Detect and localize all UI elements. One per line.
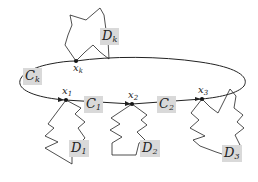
label-x2: x2 — [128, 90, 138, 102]
label-c2: C2 — [157, 96, 176, 113]
label-dk: Dk — [100, 28, 119, 45]
label-d3: D3 — [222, 145, 242, 162]
label-x1: x1 — [62, 86, 72, 98]
label-c1: C1 — [84, 96, 103, 113]
label-d1: D1 — [69, 140, 89, 157]
label-d2: D2 — [140, 140, 160, 157]
label-ck: Ck — [23, 68, 42, 85]
label-xk: xk — [73, 63, 83, 75]
label-x3: x3 — [198, 85, 208, 97]
